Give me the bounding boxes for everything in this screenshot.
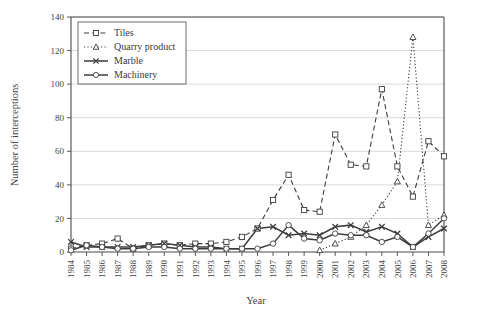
x-tick-label: 1997 [268, 260, 278, 279]
marker-circle [99, 244, 104, 249]
marker-square [224, 239, 229, 244]
y-tick-label: 80 [55, 113, 65, 123]
marker-circle [193, 246, 198, 251]
marker-circle [93, 72, 98, 77]
y-tick-label: 20 [55, 214, 65, 224]
x-tick-label: 1985 [82, 260, 92, 279]
marker-circle [146, 244, 151, 249]
x-tick-label: 1992 [191, 260, 201, 278]
x-tick-label: 2004 [377, 260, 387, 279]
chart-container: 020406080100120140 198419851986198719881… [0, 0, 492, 320]
legend-label-tiles: Tiles [114, 27, 134, 38]
marker-circle [115, 246, 120, 251]
marker-square [302, 207, 307, 212]
marker-circle [317, 238, 322, 243]
marker-circle [379, 239, 384, 244]
x-axis: 1984198519861987198819891990199119921993… [66, 252, 449, 278]
marker-circle [348, 233, 353, 238]
marker-circle [224, 246, 229, 251]
marker-circle [239, 246, 244, 251]
marker-triangle [410, 34, 416, 40]
marker-square [333, 132, 338, 137]
y-tick-label: 60 [55, 146, 65, 156]
marker-circle [130, 246, 135, 251]
marker-triangle [317, 247, 323, 253]
marker-circle [255, 246, 260, 251]
x-tick-label: 2003 [361, 260, 371, 279]
x-axis-title: Year [246, 295, 266, 306]
series-line-tiles [71, 89, 444, 248]
x-tick-label: 1999 [299, 260, 309, 279]
marker-circle [333, 231, 338, 236]
marker-square [441, 154, 446, 159]
marker-triangle [363, 222, 369, 228]
x-tick-label: 1994 [222, 260, 232, 279]
marker-square [94, 31, 99, 36]
marker-square [286, 172, 291, 177]
x-tick-label: 2008 [439, 260, 449, 279]
x-tick-label: 1990 [159, 260, 169, 279]
marker-circle [286, 222, 291, 227]
y-tick-label: 100 [51, 79, 65, 89]
marker-circle [162, 244, 167, 249]
x-tick-label: 1988 [128, 260, 138, 279]
marker-square [270, 197, 275, 202]
marker-circle [395, 234, 400, 239]
legend: TilesQuarry productMarbleMachinery [78, 22, 186, 84]
marker-circle [84, 243, 89, 248]
x-tick-label: 1995 [237, 260, 247, 279]
marker-triangle [332, 240, 338, 246]
y-tick-label: 120 [51, 46, 65, 56]
marker-triangle [394, 178, 400, 184]
marker-circle [270, 241, 275, 246]
marker-square [348, 162, 353, 167]
marker-circle [441, 216, 446, 221]
marker-circle [208, 246, 213, 251]
x-tick-label: 2006 [408, 260, 418, 279]
marker-square [395, 164, 400, 169]
marker-square [317, 209, 322, 214]
marker-circle [68, 248, 73, 253]
y-axis-title: Number of interceptions [9, 84, 20, 187]
x-tick-label: 1989 [144, 260, 154, 279]
x-tick-label: 2002 [346, 260, 356, 278]
x-tick-label: 1984 [66, 260, 76, 279]
x-tick-label: 2000 [315, 260, 325, 279]
marker-square [115, 236, 120, 241]
legend-label-marble: Marble [114, 55, 143, 66]
legend-label-machinery: Machinery [114, 69, 157, 80]
legend-label-quarry-product: Quarry product [114, 41, 176, 52]
marker-square [410, 194, 415, 199]
x-tick-label: 1987 [113, 260, 123, 279]
marker-square [239, 234, 244, 239]
marker-square [364, 164, 369, 169]
marker-triangle [425, 222, 431, 228]
x-tick-label: 2005 [393, 260, 403, 279]
x-tick-label: 1998 [284, 260, 294, 279]
x-tick-label: 1993 [206, 260, 216, 279]
marker-circle [364, 233, 369, 238]
marker-circle [426, 231, 431, 236]
x-tick-label: 2007 [424, 260, 434, 279]
y-tick-label: 140 [51, 12, 65, 22]
y-tick-label: 0 [60, 247, 65, 257]
x-tick-label: 1991 [175, 260, 185, 278]
marker-square [379, 87, 384, 92]
x-tick-label: 1996 [253, 260, 263, 279]
marker-circle [410, 244, 415, 249]
y-tick-label: 40 [55, 180, 65, 190]
x-tick-label: 2001 [330, 260, 340, 278]
marker-square [426, 139, 431, 144]
marker-circle [177, 246, 182, 251]
line-chart: 020406080100120140 198419851986198719881… [0, 0, 492, 320]
marker-circle [301, 236, 306, 241]
x-tick-label: 1986 [97, 260, 107, 279]
